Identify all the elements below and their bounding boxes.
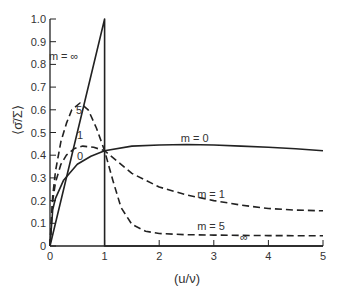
curve-label: m = 0 [181, 132, 209, 144]
annotations: m = ∞510m = 0m = 1m = 5∞ [49, 50, 248, 244]
curve-label: m = 5 [197, 220, 225, 232]
series-m-5 [50, 103, 323, 246]
y-tick-label: 0.4 [31, 149, 46, 161]
y-tick-label: 0.6 [31, 104, 46, 116]
x-tick-label: 0 [47, 250, 53, 262]
series-m-1 [50, 146, 323, 246]
curve-label: 5 [76, 104, 82, 116]
y-tick-label: 0.8 [31, 58, 46, 70]
curve-label: m = ∞ [49, 50, 79, 62]
y-tick-label: 1.0 [31, 13, 46, 25]
x-tick-label: 3 [211, 250, 217, 262]
x-axis-label: (u/ν) [174, 271, 200, 286]
curve-label: 1 [77, 129, 83, 141]
y-tick-label: 0.7 [31, 81, 46, 93]
curve-label: 0 [77, 150, 83, 162]
y-axis-label: ⟨σ̄/Σ⟩ [10, 105, 25, 135]
line-chart: 01234500.10.20.30.40.50.60.70.80.91.0 m … [0, 0, 341, 291]
y-tick-label: 0.1 [31, 217, 46, 229]
x-tick-label: 4 [265, 250, 271, 262]
chart: 01234500.10.20.30.40.50.60.70.80.91.0 m … [0, 0, 341, 291]
y-tick-label: 0.5 [31, 127, 46, 139]
y-tick-label: 0 [40, 240, 46, 252]
curve-label: m = 1 [197, 188, 225, 200]
x-tick-label: 2 [156, 250, 162, 262]
x-tick-label: 1 [102, 250, 108, 262]
y-tick-label: 0.2 [31, 195, 46, 207]
y-tick-label: 0.3 [31, 172, 46, 184]
series-m-0 [50, 145, 323, 247]
y-tick-label: 0.9 [31, 36, 46, 48]
x-tick-label: 5 [320, 250, 326, 262]
curve-label: ∞ [240, 231, 248, 243]
